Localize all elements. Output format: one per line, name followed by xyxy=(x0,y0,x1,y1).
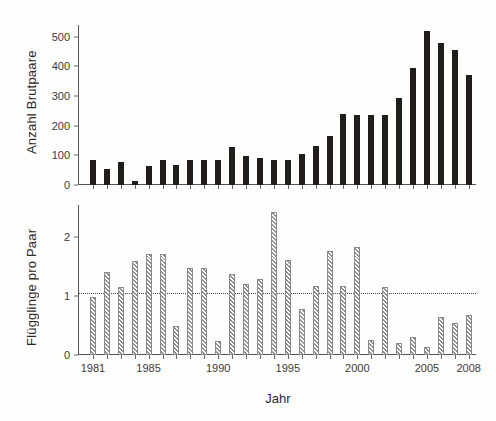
bar-breeding-pairs xyxy=(215,160,221,185)
x-tick-mark-bottom xyxy=(176,355,177,359)
bar-breeding-pairs xyxy=(243,156,249,185)
x-tick-mark-bottom xyxy=(469,355,470,359)
bar-fledglings-per-pair xyxy=(160,254,166,355)
bar-breeding-pairs xyxy=(229,147,235,185)
x-axis-title: Jahr xyxy=(265,391,290,406)
y-axis-line-top xyxy=(78,25,79,185)
x-tick-mark-top xyxy=(371,185,372,189)
x-tick-mark-bottom xyxy=(204,355,205,359)
x-tick-mark-bottom xyxy=(190,355,191,359)
y-tick-label-top: 100 xyxy=(38,149,70,161)
bar-fledglings-per-pair xyxy=(271,212,277,355)
x-tick-mark-top xyxy=(149,185,150,189)
bar-fledglings-per-pair xyxy=(132,261,138,355)
bar-fledglings-per-pair xyxy=(340,286,346,355)
y-tick-label-top: 400 xyxy=(38,60,70,72)
bar-breeding-pairs xyxy=(410,68,416,185)
bar-breeding-pairs xyxy=(368,115,374,185)
x-tick-mark-top xyxy=(121,185,122,189)
bar-breeding-pairs xyxy=(90,160,96,185)
plot-area-bottom: 0121981198519901995200020052008 xyxy=(78,205,478,355)
bar-breeding-pairs xyxy=(146,166,152,185)
x-tick-mark-bottom xyxy=(330,355,331,359)
chart-panel-fledglings: Flügglinge pro Paar 01219811985199019952… xyxy=(0,200,496,421)
bar-fledglings-per-pair xyxy=(327,251,333,355)
y-tick-label-top: 300 xyxy=(38,90,70,102)
x-tick-mark-top xyxy=(176,185,177,189)
x-tick-mark-bottom xyxy=(288,355,289,359)
x-tick-mark-bottom xyxy=(413,355,414,359)
x-tick-mark-top xyxy=(343,185,344,189)
bar-breeding-pairs xyxy=(466,75,472,185)
y-tick-mark-top xyxy=(74,36,78,37)
bar-breeding-pairs xyxy=(104,169,110,185)
bar-breeding-pairs xyxy=(173,165,179,185)
x-tick-mark-bottom xyxy=(121,355,122,359)
bar-fledglings-per-pair xyxy=(146,254,152,355)
x-tick-mark-top xyxy=(260,185,261,189)
bar-fledglings-per-pair xyxy=(299,309,305,355)
x-tick-mark-top xyxy=(93,185,94,189)
x-tick-mark-top xyxy=(357,185,358,189)
bar-fledglings-per-pair xyxy=(424,347,430,355)
x-tick-mark-bottom xyxy=(232,355,233,359)
bar-breeding-pairs xyxy=(118,162,124,185)
x-tick-mark-bottom xyxy=(107,355,108,359)
x-tick-label-2005: 2005 xyxy=(415,362,439,374)
x-tick-label-1981: 1981 xyxy=(81,362,105,374)
bar-breeding-pairs xyxy=(313,146,319,185)
x-tick-mark-bottom xyxy=(385,355,386,359)
bar-breeding-pairs xyxy=(438,43,444,185)
chart-panel-breeding-pairs: Anzahl Brutpaare 0100200300400500 xyxy=(0,0,496,200)
x-tick-mark-top xyxy=(288,185,289,189)
bar-breeding-pairs xyxy=(160,160,166,185)
y-tick-label-bottom: 2 xyxy=(38,231,70,243)
x-tick-mark-bottom xyxy=(218,355,219,359)
x-tick-mark-bottom xyxy=(260,355,261,359)
y-tick-mark-bottom xyxy=(74,296,78,297)
x-tick-mark-bottom xyxy=(455,355,456,359)
x-tick-mark-bottom xyxy=(427,355,428,359)
x-tick-label-2008: 2008 xyxy=(456,362,480,374)
x-tick-label-1985: 1985 xyxy=(136,362,160,374)
bar-fledglings-per-pair xyxy=(410,337,416,355)
bar-breeding-pairs xyxy=(201,160,207,185)
x-tick-mark-top xyxy=(427,185,428,189)
x-tick-mark-bottom xyxy=(441,355,442,359)
x-tick-mark-top xyxy=(218,185,219,189)
bar-fledglings-per-pair xyxy=(368,340,374,355)
x-tick-mark-top xyxy=(232,185,233,189)
bar-breeding-pairs xyxy=(257,158,263,185)
bar-fledglings-per-pair xyxy=(382,287,388,355)
x-tick-label-2000: 2000 xyxy=(345,362,369,374)
y-tick-label-bottom: 1 xyxy=(38,290,70,302)
x-tick-mark-top xyxy=(399,185,400,189)
y-tick-label-bottom: 0 xyxy=(38,349,70,361)
x-tick-mark-top xyxy=(469,185,470,189)
x-tick-mark-top xyxy=(274,185,275,189)
bar-fledglings-per-pair xyxy=(187,268,193,355)
bar-breeding-pairs xyxy=(396,98,402,185)
y-tick-label-top: 500 xyxy=(38,31,70,43)
x-tick-mark-bottom xyxy=(399,355,400,359)
bar-fledglings-per-pair xyxy=(396,343,402,355)
bar-breeding-pairs xyxy=(382,115,388,185)
bar-fledglings-per-pair xyxy=(354,247,360,355)
y-axis-label-top: Anzahl Brutpaare xyxy=(24,20,39,185)
x-tick-label-1990: 1990 xyxy=(206,362,230,374)
x-tick-mark-bottom xyxy=(135,355,136,359)
bar-fledglings-per-pair xyxy=(313,286,319,355)
x-tick-mark-bottom xyxy=(149,355,150,359)
x-tick-mark-bottom xyxy=(343,355,344,359)
bar-fledglings-per-pair xyxy=(90,297,96,355)
plot-area-top: 0100200300400500 xyxy=(78,25,478,185)
bar-fledglings-per-pair xyxy=(173,326,179,355)
x-tick-mark-bottom xyxy=(246,355,247,359)
x-tick-label-1995: 1995 xyxy=(276,362,300,374)
y-tick-mark-bottom xyxy=(74,355,78,356)
y-tick-mark-top xyxy=(74,155,78,156)
x-tick-mark-bottom xyxy=(371,355,372,359)
x-tick-mark-top xyxy=(135,185,136,189)
y-tick-mark-top xyxy=(74,185,78,186)
bar-fledglings-per-pair xyxy=(466,315,472,355)
